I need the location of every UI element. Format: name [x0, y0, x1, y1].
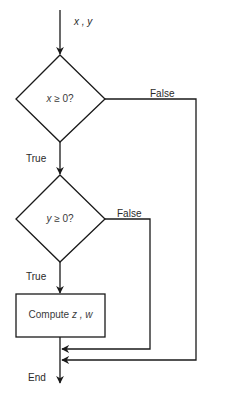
decision-y-condition: ≥ 0?: [51, 213, 73, 224]
flowchart-canvas: [0, 0, 228, 396]
decision-y-text: y ≥ 0?: [30, 213, 90, 225]
end-label: End: [28, 372, 46, 384]
false-label-y: False: [117, 208, 141, 220]
decision-x-text: x ≥ 0?: [30, 93, 90, 105]
process-compute-vars: z , w: [72, 309, 93, 320]
true-label-x: True: [26, 153, 46, 165]
false-label-x: False: [150, 88, 174, 100]
process-compute-text: Compute z , w: [16, 309, 105, 321]
true-label-y: True: [26, 271, 46, 283]
input-label: x , y: [74, 16, 92, 28]
process-compute-prefix: Compute: [29, 309, 72, 320]
decision-x-condition: ≥ 0?: [51, 93, 73, 104]
